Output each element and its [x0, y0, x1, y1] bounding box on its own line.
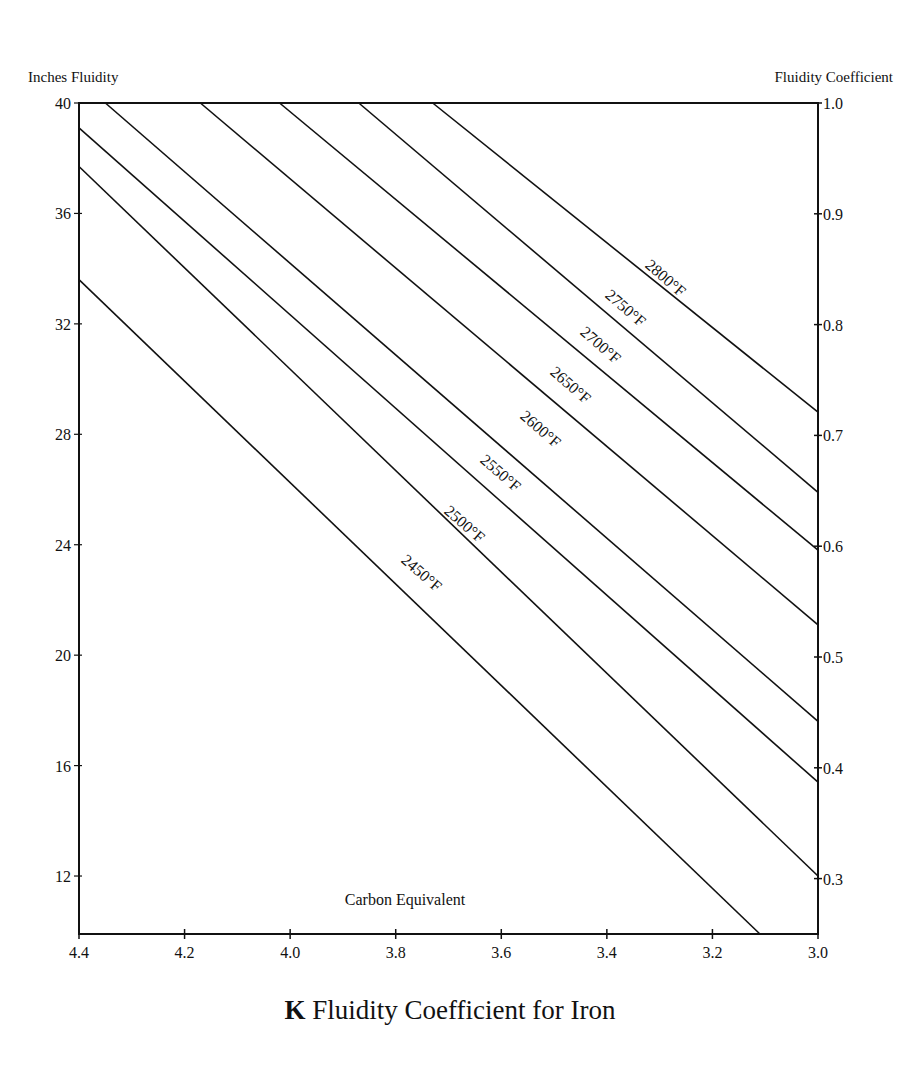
x-tick-label: 3.4: [597, 944, 617, 961]
temperature-line: [280, 103, 818, 550]
y-left-tick-label: 32: [55, 316, 71, 333]
x-tick-label: 3.0: [808, 944, 828, 961]
y-right-tick-label: 0.3: [823, 871, 843, 888]
y-right-tick-label: 0.8: [823, 317, 843, 334]
figure-caption: K Fluidity Coefficient for Iron: [0, 995, 900, 1026]
y-left-tick-label: 28: [55, 426, 71, 443]
y-right-tick-label: 0.7: [823, 427, 843, 444]
y-right-tick-label: 0.9: [823, 206, 843, 223]
temperature-line: [105, 103, 818, 721]
temperature-line-label: 2550°F: [477, 451, 524, 495]
y-right-axis-title: Fluidity Coefficient: [775, 69, 894, 85]
x-tick-label: 4.4: [69, 944, 89, 961]
temperature-line-label: 2800°F: [642, 256, 689, 300]
y-left-tick-label: 20: [55, 647, 71, 664]
temperature-line: [79, 167, 818, 877]
caption-text: Fluidity Coefficient for Iron: [312, 995, 615, 1025]
y-left-tick-label: 16: [55, 758, 71, 775]
y-left-axis-ticks: 4036322824201612: [55, 95, 82, 885]
y-left-tick-label: 36: [55, 205, 71, 222]
y-left-tick-label: 24: [55, 537, 71, 554]
temperature-line-label: 2500°F: [441, 502, 488, 546]
temperature-line: [79, 128, 818, 782]
temperature-line-label: 2700°F: [577, 323, 624, 367]
chart: Inches Fluidity Fluidity Coefficient Car…: [0, 0, 900, 1066]
y-right-tick-label: 0.4: [823, 760, 843, 777]
y-left-axis-title: Inches Fluidity: [28, 69, 119, 85]
y-right-tick-label: 0.6: [823, 538, 843, 555]
y-right-tick-label: 0.5: [823, 649, 843, 666]
y-left-tick-label: 40: [55, 95, 71, 112]
temperature-line: [359, 103, 818, 492]
temperature-line-label: 2650°F: [547, 363, 594, 407]
y-right-tick-label: 1.0: [823, 95, 843, 112]
temperature-line-label: 2450°F: [398, 551, 445, 595]
x-tick-label: 4.0: [280, 944, 300, 961]
x-axis-title: Carbon Equivalent: [345, 891, 466, 909]
temperature-line-label: 2750°F: [602, 286, 649, 330]
caption-prefix: K: [285, 995, 306, 1025]
temperature-line: [79, 280, 760, 934]
plot-area: Inches Fluidity Fluidity Coefficient Car…: [0, 0, 900, 1066]
temperature-line: [200, 103, 818, 625]
x-tick-label: 3.8: [386, 944, 406, 961]
x-tick-label: 4.2: [175, 944, 195, 961]
y-left-tick-label: 12: [55, 868, 71, 885]
temperature-line: [433, 103, 818, 412]
x-tick-label: 3.6: [491, 944, 511, 961]
temperature-line-label: 2600°F: [517, 407, 564, 451]
x-tick-label: 3.2: [702, 944, 722, 961]
